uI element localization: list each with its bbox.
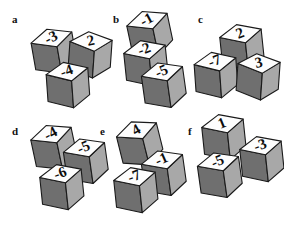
cube-puzzle-figure: a-32-4b-1-2-5c2-73d-4-5-6e4-1-7f1-3-5 [0,0,284,231]
cube-f-3: -5 [193,147,252,206]
cube-group-f: 1-3-5 [0,0,284,231]
